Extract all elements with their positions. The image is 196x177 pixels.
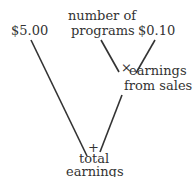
price-label: $5.00 xyxy=(11,24,48,37)
programs-label-line1: number of xyxy=(68,9,136,22)
total-label-line2: earnings xyxy=(66,165,124,177)
edge-price-to-total xyxy=(31,40,87,156)
edge-sales-to-total xyxy=(100,95,122,152)
sales-earnings-label-line2: from sales xyxy=(124,79,192,92)
calculation-tree-diagram: $5.00 number of programs $0.10 × earning… xyxy=(0,0,196,177)
sales-earnings-label-line1: earnings xyxy=(129,64,187,77)
programs-label-line2: programs xyxy=(71,24,135,37)
edge-programs-to-multiply xyxy=(101,40,119,72)
unit-earning-label: $0.10 xyxy=(138,24,175,37)
